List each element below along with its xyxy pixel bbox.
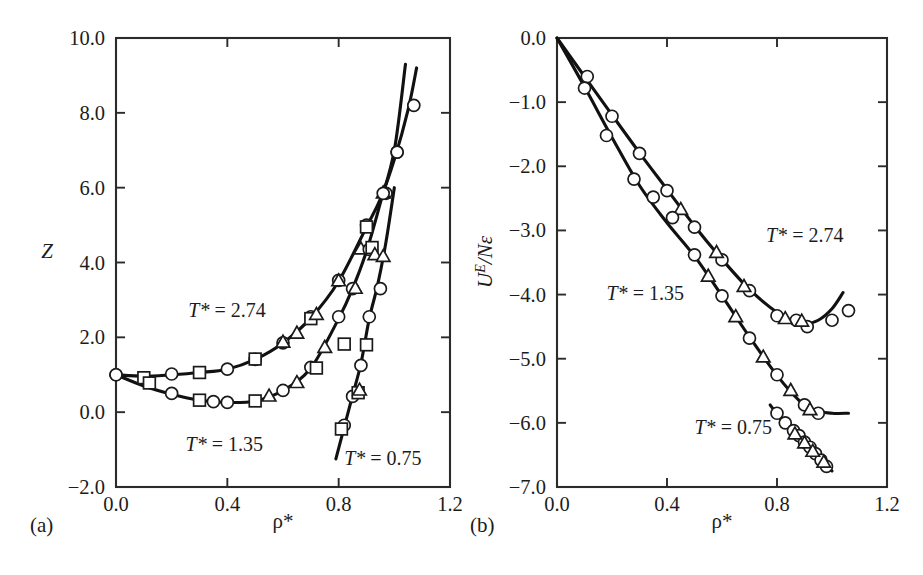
annotation-symbol: T* (344, 447, 365, 469)
annotation-a-0: T* = 2.74 (188, 299, 265, 321)
y-axis-title-b: UE/Nε (473, 235, 497, 288)
panel-label-b: (b) (470, 513, 495, 537)
y-tick-label-a-2: 2.0 (79, 326, 105, 348)
annotation-value: = 2.74 (787, 224, 843, 246)
data-point-circle (207, 396, 219, 408)
panel-label-a: (a) (30, 513, 53, 537)
x-tick-label-a-3: 1.2 (437, 493, 463, 515)
data-point-circle (771, 369, 783, 381)
data-point-circle (333, 311, 345, 323)
annotation-b-2: T* = 0.75 (695, 416, 772, 438)
data-point-circle (601, 130, 613, 142)
data-point-square (249, 395, 261, 407)
y-tick-label-b-2: −5.0 (509, 348, 546, 370)
data-point-circle (110, 369, 122, 381)
data-point-circle (391, 146, 403, 158)
y-tick-label-a-4: 6.0 (79, 177, 105, 199)
annotation-b-0: T* = 2.74 (766, 224, 843, 246)
x-tick-label-a-1: 0.4 (215, 493, 241, 515)
data-point-circle (581, 70, 593, 82)
data-point-circle (689, 249, 701, 261)
data-point-circle (628, 173, 640, 185)
annotation-value: = 1.35 (207, 433, 263, 455)
data-point-circle (363, 311, 375, 323)
data-point-circle (634, 147, 646, 159)
data-point-circle (377, 187, 389, 199)
data-point-circle (843, 305, 855, 317)
data-point-circle (716, 290, 728, 302)
y-tick-label-a-3: 4.0 (79, 252, 105, 274)
data-point-circle (221, 396, 233, 408)
annotation-symbol: T* (607, 282, 628, 304)
annotation-symbol: T* (766, 224, 787, 246)
y-tick-label-b-0: −7.0 (509, 476, 546, 498)
data-point-circle (689, 221, 701, 233)
data-point-square (311, 362, 323, 374)
data-point-circle (667, 212, 679, 224)
y-axis-title-a: Z (41, 239, 53, 263)
annotation-symbol: T* (188, 299, 209, 321)
annotation-symbol: T* (186, 433, 207, 455)
data-point-circle (374, 283, 386, 295)
y-tick-label-b-6: −1.0 (509, 91, 546, 113)
data-point-square (194, 367, 206, 379)
data-point-circle (606, 110, 618, 122)
figure-background (0, 0, 923, 575)
data-point-square (144, 377, 156, 389)
data-point-square (194, 394, 206, 406)
annotation-a-1: T* = 1.35 (186, 433, 263, 455)
y-title-sup-E: E (473, 264, 488, 274)
data-point-circle (647, 191, 659, 203)
x-tick-label-b-3: 1.2 (874, 493, 900, 515)
data-point-square (336, 423, 348, 435)
y-tick-label-b-7: 0.0 (520, 27, 546, 49)
annotation-symbol: T* (695, 416, 716, 438)
y-tick-label-a-0: −2.0 (68, 476, 105, 498)
data-point-square (361, 221, 373, 233)
y-tick-label-a-5: 8.0 (79, 102, 105, 124)
x-tick-label-a-0: 0.0 (103, 493, 129, 515)
x-tick-label-b-2: 0.8 (764, 493, 790, 515)
y-tick-label-b-4: −3.0 (509, 219, 546, 241)
figure-svg: 0.00.40.81.2−2.00.02.04.06.08.010.0T* = … (0, 0, 923, 575)
y-title-rest: /Nε (473, 235, 497, 265)
data-point-square (361, 339, 373, 351)
figure-container: 0.00.40.81.2−2.00.02.04.06.08.010.0T* = … (0, 0, 923, 575)
data-point-circle (355, 359, 367, 371)
annotation-value: = 0.75 (716, 416, 772, 438)
x-tick-label-b-1: 0.4 (654, 493, 680, 515)
data-point-circle (166, 387, 178, 399)
y-tick-label-b-1: −6.0 (509, 412, 546, 434)
data-point-circle (221, 363, 233, 375)
x-tick-label-b-0: 0.0 (544, 493, 570, 515)
data-point-circle (826, 314, 838, 326)
annotation-value: = 0.75 (365, 447, 421, 469)
y-tick-label-a-1: 0.0 (79, 401, 105, 423)
x-axis-title-b: ρ* (712, 509, 733, 533)
data-point-circle (661, 185, 673, 197)
y-tick-label-b-3: −4.0 (509, 284, 546, 306)
y-tick-label-a-6: 10.0 (69, 27, 105, 49)
data-point-circle (744, 332, 756, 344)
data-point-circle (166, 368, 178, 380)
annotation-a-2: T* = 0.75 (344, 447, 421, 469)
data-point-square (338, 338, 350, 350)
x-tick-label-a-2: 0.8 (326, 493, 352, 515)
x-axis-title-a: ρ* (273, 509, 294, 533)
data-point-circle (579, 82, 591, 94)
data-point-square (249, 353, 261, 365)
data-point-circle (277, 384, 289, 396)
data-point-circle (408, 99, 420, 111)
annotation-value: = 2.74 (209, 299, 265, 321)
annotation-value: = 1.35 (628, 282, 684, 304)
annotation-b-1: T* = 1.35 (607, 282, 684, 304)
y-tick-label-b-5: −2.0 (509, 155, 546, 177)
